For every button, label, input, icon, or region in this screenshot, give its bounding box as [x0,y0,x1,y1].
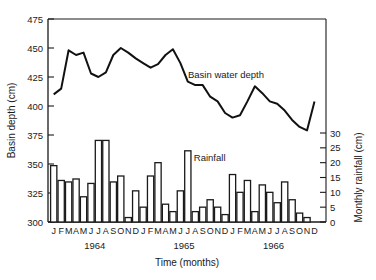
rainfall-bar [133,191,139,222]
rainfall-bar [304,218,310,222]
month-label: J [51,226,56,236]
x-axis-title: Time (months) [155,257,219,268]
month-label: J [178,226,183,236]
rainfall-bar [147,176,153,222]
month-label: N [304,226,311,236]
month-label: A [73,226,79,236]
basin-depth-polyline [54,48,315,130]
rainfall-bar [185,151,191,222]
right-tick-label: 25 [330,142,341,153]
left-tick-label: 300 [27,217,43,228]
rainfall-bar [289,200,295,222]
rainfall-bar [51,166,57,222]
rainfall-basin-depth-chart: 300325350375400425450475051015202530Basi… [0,0,376,280]
month-label: O [296,226,303,236]
rainfall-bars [51,140,311,222]
left-tick-label: 375 [27,130,43,141]
rainfall-bar [88,183,94,222]
month-label: A [282,226,288,236]
rainfall-bar [140,207,146,222]
month-label: O [207,226,214,236]
rainfall-bar [80,197,86,222]
rainfall-bar [110,182,116,222]
month-label: S [289,226,295,236]
rainfall-bar [207,200,213,222]
rainfall-bar [244,180,250,222]
right-tick-label: 10 [330,187,341,198]
month-label: M [154,226,162,236]
month-label: M [169,226,177,236]
month-label: M [65,226,73,236]
rainfall-bar [162,204,168,222]
month-label: D [222,226,229,236]
month-label: S [200,226,206,236]
month-label: J [275,226,280,236]
rainfall-annotation: Rainfall [194,152,226,163]
left-tick-label: 400 [27,101,43,112]
left-axis-title: Basin depth (cm) [6,83,17,159]
basin-depth-line [54,48,315,130]
rainfall-bar [252,212,258,222]
rainfall-bar [200,207,206,222]
month-label: M [244,226,252,236]
month-label: A [192,226,198,236]
rainfall-bar [237,192,243,222]
left-tick-label: 450 [27,43,43,54]
rainfall-bar [58,180,64,222]
rainfall-bar [215,207,221,222]
month-label: F [237,226,243,236]
month-label: J [89,226,94,236]
month-label: J [141,226,146,236]
month-label: D [311,226,318,236]
rainfall-bar [267,192,273,222]
right-tick-label: 5 [330,202,335,213]
rainfall-bar [155,163,161,222]
left-tick-label: 350 [27,159,43,170]
rainfall-bar [66,182,72,222]
rainfall-bar [229,175,235,222]
year-label: 1965 [174,240,195,251]
right-axis-title: Monthly rainfall (cm) [353,132,364,222]
basin-depth-annotation: Basin water depth [188,69,264,80]
month-label: D [132,226,139,236]
rainfall-bar [282,182,288,222]
year-label: 1964 [84,240,105,251]
rainfall-bar [192,212,198,222]
month-label: F [148,226,154,236]
month-label: A [103,226,109,236]
month-label: M [80,226,88,236]
month-label: M [259,226,267,236]
rainfall-bar [222,215,228,222]
rainfall-bar [95,140,101,222]
month-label: J [96,226,101,236]
month-label: A [162,226,168,236]
axis-labels: 300325350375400425450475051015202530Basi… [6,14,364,269]
rainfall-bar [259,185,265,222]
rainfall-bar [118,176,124,222]
right-tick-label: 30 [330,128,341,139]
month-label: N [214,226,221,236]
left-tick-label: 325 [27,188,43,199]
rainfall-bar [103,140,109,222]
month-label: S [110,226,116,236]
rainfall-bar [125,218,131,222]
right-tick-label: 0 [330,217,335,228]
right-tick-label: 20 [330,157,341,168]
left-tick-label: 475 [27,14,43,25]
rainfall-bar [274,203,280,222]
rainfall-bar [296,213,302,222]
rainfall-bar [73,179,79,222]
left-tick-label: 425 [27,72,43,83]
month-label: J [186,226,191,236]
rainfall-bar [170,212,176,222]
month-label: J [230,226,235,236]
month-label: O [117,226,124,236]
month-label: A [252,226,258,236]
year-label: 1966 [263,240,284,251]
month-label: F [58,226,64,236]
month-label: J [268,226,273,236]
right-tick-label: 15 [330,172,341,183]
month-label: N [125,226,132,236]
rainfall-bar [177,191,183,222]
